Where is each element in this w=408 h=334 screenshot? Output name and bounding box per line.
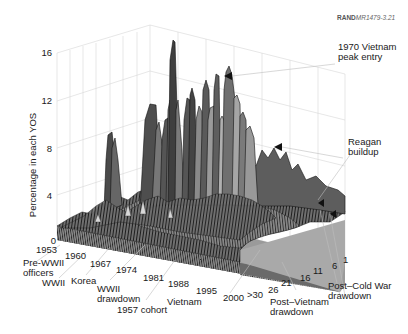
annotation-1957-cohort: 1957 cohort xyxy=(117,304,168,315)
svg-text:>30: >30 xyxy=(247,289,263,300)
svg-text:11: 11 xyxy=(313,265,323,276)
svg-text:16: 16 xyxy=(300,272,311,283)
annotation-korea: Korea xyxy=(71,275,97,286)
svg-text:1988: 1988 xyxy=(168,278,189,289)
svg-text:1981: 1981 xyxy=(143,272,164,283)
annotation-vietnam-peak: 1970 Vietnam peak entry xyxy=(338,41,399,62)
svg-text:1967: 1967 xyxy=(90,258,111,269)
svg-text:6: 6 xyxy=(332,260,337,271)
svg-text:2000: 2000 xyxy=(223,292,244,303)
annotation-vietnam: Vietnam xyxy=(167,296,202,307)
surface-chart: RANDMR1479-3.21 xyxy=(0,0,408,334)
z-axis-label: Percentage in each YOS xyxy=(27,113,38,217)
svg-text:4: 4 xyxy=(47,190,52,201)
svg-text:8: 8 xyxy=(47,143,52,154)
svg-text:26: 26 xyxy=(268,284,279,295)
annotation-reagan: Reagan buildup xyxy=(348,136,384,157)
svg-text:21: 21 xyxy=(281,277,292,288)
annotation-post-vietnam: Post–Vietnam drawdown xyxy=(270,296,332,317)
svg-text:1: 1 xyxy=(343,254,348,265)
svg-text:1960: 1960 xyxy=(65,250,86,261)
svg-text:16: 16 xyxy=(41,47,52,58)
svg-text:12: 12 xyxy=(41,95,52,106)
annotation-wwii: WWII xyxy=(42,277,65,288)
annotation-wwii-drawdown: WWII drawdown xyxy=(97,283,140,304)
z-axis: 16 12 8 4 0 Percentage in each YOS xyxy=(27,47,56,246)
annotation-pre-wwii: Pre-WWII officers xyxy=(23,257,67,278)
figure-id: RANDMR1479-3.21 xyxy=(337,14,396,21)
svg-text:1974: 1974 xyxy=(116,264,137,275)
svg-text:1953: 1953 xyxy=(36,244,57,255)
annotation-post-cold-war: Post–Cold War drawdown xyxy=(328,280,394,301)
svg-text:1995: 1995 xyxy=(196,285,217,296)
